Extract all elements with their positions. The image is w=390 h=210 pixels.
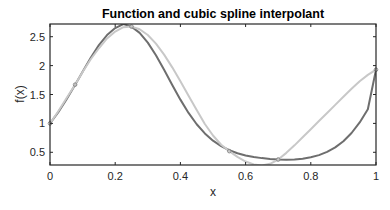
y-tick-label: 0.5 (30, 146, 45, 158)
x-tick-label: 0.8 (303, 170, 318, 182)
x-tick-label: 0.4 (173, 170, 188, 182)
y-tick-label: 1 (39, 117, 45, 129)
y-tick-label: 1.5 (30, 89, 45, 101)
x-axis-label: x (210, 185, 216, 199)
chart-title: Function and cubic spline interpolant (102, 7, 325, 21)
x-tick-label: 0 (47, 170, 53, 182)
y-tick-label: 2.5 (30, 31, 45, 43)
chart: Function and cubic spline interpolant 00… (0, 0, 390, 210)
x-tick-label: 0.2 (108, 170, 123, 182)
x-tick-label: 0.6 (238, 170, 253, 182)
x-tick-label: 1 (373, 170, 379, 182)
y-tick-label: 2 (39, 60, 45, 72)
y-axis-label: f(x) (13, 85, 27, 102)
